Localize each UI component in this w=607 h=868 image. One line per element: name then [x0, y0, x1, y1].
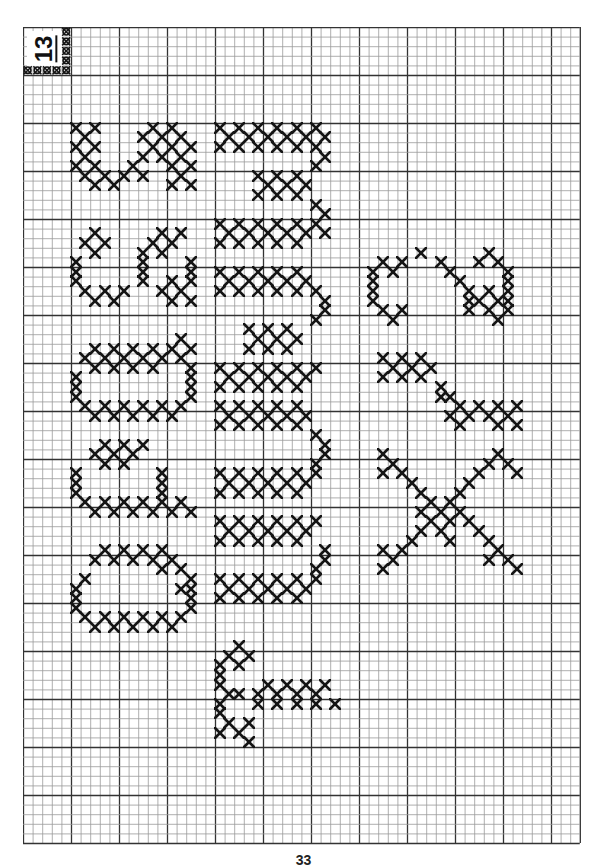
cross-stitch-icon: [291, 698, 303, 710]
cross-stitch-icon: [310, 314, 322, 326]
cross-stitch-icon: [444, 535, 456, 547]
cross-stitch-icon: [252, 141, 264, 153]
cross-stitch-icon: [271, 535, 283, 547]
cross-stitch-icon: [233, 419, 245, 431]
cross-stitch-icon: [89, 179, 101, 191]
cross-stitch-icon: [185, 179, 197, 191]
cross-stitch-icon: [233, 592, 245, 604]
cross-stitch-icon: [252, 535, 264, 547]
cross-stitch-icon: [252, 487, 264, 499]
cross-stitch-icon: [233, 285, 245, 297]
cross-stitch-icon: [252, 419, 264, 431]
cross-stitch-icon: [137, 170, 149, 182]
cross-stitch-icon: [291, 141, 303, 153]
cross-stitch-icon: [463, 304, 475, 316]
cross-stitch-icon: [214, 419, 226, 431]
cross-stitch-icon: [147, 362, 159, 374]
cross-stitch-icon: [377, 467, 389, 479]
cross-stitch-icon: [377, 371, 389, 383]
cross-stitch-icon: [271, 189, 283, 201]
cross-stitch-icon: [396, 256, 408, 268]
cross-stitch-icon: [262, 343, 274, 355]
cross-stitch-icon: [377, 544, 389, 556]
cross-stitch-icon: [156, 247, 168, 259]
label-border-stitches: [23, 27, 75, 79]
cross-stitch-icon: [252, 381, 264, 393]
cross-stitch-icon: [271, 487, 283, 499]
cross-stitch-icon: [243, 736, 255, 748]
cross-stitch-icon: [233, 535, 245, 547]
cross-stitch-icon: [271, 381, 283, 393]
cross-stitch-icon: [185, 256, 197, 268]
cross-stitch-icon: [166, 295, 178, 307]
cross-stitch-icon: [233, 688, 245, 700]
cross-stitch-icon: [425, 515, 437, 527]
cross-stitch-icon: [233, 141, 245, 153]
cross-stitch-icon: [243, 343, 255, 355]
cross-stitch-icon: [396, 304, 408, 316]
cross-stitch-icon: [329, 698, 341, 710]
cross-stitch-icon: [291, 419, 303, 431]
cross-stitch-icon: [252, 237, 264, 249]
cross-stitch-icon: [175, 227, 187, 239]
cross-stitch-icon: [214, 487, 226, 499]
cross-stitch-icon: [156, 151, 168, 163]
cross-stitch-icon: [435, 391, 447, 403]
cross-stitch-icon: [243, 650, 255, 662]
cross-stitch-icon: [156, 487, 168, 499]
cross-stitch-icon: [483, 285, 495, 297]
cross-stitch-icon: [108, 362, 120, 374]
cross-stitch-icon: [166, 179, 178, 191]
cross-stitch-icon: [214, 141, 226, 153]
cross-stitch-icon: [310, 698, 322, 710]
cross-stitch-icon: [137, 439, 149, 451]
cross-stitch-icon: [415, 247, 427, 259]
cross-stitch-icon: [243, 717, 255, 729]
cross-stitch-icon: [281, 343, 293, 355]
cross-stitch-icon: [291, 237, 303, 249]
cross-stitch-icon: [214, 592, 226, 604]
cross-stitch-icon: [291, 189, 303, 201]
cross-stitch-icon: [127, 362, 139, 374]
cross-stitch-icon: [377, 563, 389, 575]
cross-stitch-icon: [214, 535, 226, 547]
cross-stitch-icon: [271, 141, 283, 153]
cross-stitch-icon: [156, 563, 168, 575]
cross-stitch-icon: [463, 410, 475, 422]
cross-stitch-icon: [185, 295, 197, 307]
cross-stitch-icon: [99, 237, 111, 249]
cross-stitch-icon: [396, 371, 408, 383]
cross-stitch-icon: [310, 160, 322, 172]
cross-stitch-icon: [233, 237, 245, 249]
cross-stitch-icon: [319, 227, 331, 239]
cross-stitch-icon: [175, 583, 187, 595]
cross-stitch-icon: [137, 131, 149, 143]
cross-stitch-icon: [291, 285, 303, 297]
cross-stitch-icon: [233, 381, 245, 393]
cross-stitch-icon: [454, 487, 466, 499]
cross-stitch-icon: [271, 592, 283, 604]
cross-stitch-icon: [214, 381, 226, 393]
cross-stitch-icon: [252, 285, 264, 297]
cross-stitch-icon: [291, 487, 303, 499]
cross-stitch-icon: [291, 592, 303, 604]
cross-stitch-icon: [185, 362, 197, 374]
cross-stitch-icon: [415, 371, 427, 383]
cross-stitch-icon: [252, 592, 264, 604]
cross-stitch-icon: [271, 285, 283, 297]
cross-stitch-icon: [185, 506, 197, 518]
cross-stitch-icon: [291, 381, 303, 393]
cross-stitch-icon: [319, 131, 331, 143]
cross-stitch-icon: [271, 237, 283, 249]
cross-stitch-icon: [492, 314, 504, 326]
cross-stitch-icon: [291, 535, 303, 547]
cross-stitch-icon: [502, 410, 514, 422]
cross-stitch-icon: [483, 554, 495, 566]
cross-stitch-icon: [252, 189, 264, 201]
cross-stitch-icon: [511, 467, 523, 479]
page-number: 33: [0, 852, 607, 868]
cross-stitch-icon: [214, 727, 226, 739]
cross-stitch-icon: [185, 343, 197, 355]
cross-stitch-icon: [271, 419, 283, 431]
cross-stitch-icon: [233, 487, 245, 499]
